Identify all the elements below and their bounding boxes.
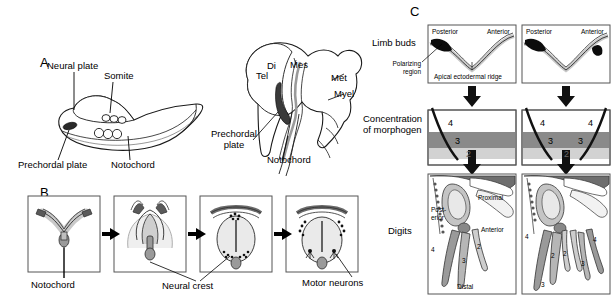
skeleton-right-digit-3a: 3 (581, 260, 585, 268)
skeleton-right-digit-2a: 2 (551, 252, 555, 260)
label-anterior-left: Anterior (487, 28, 510, 36)
label-posterior-left: Posterior (432, 28, 458, 36)
morphogen-digit-left-3: 3 (455, 136, 460, 146)
morphogen-digit-right-3b: 3 (578, 136, 583, 146)
morphogen-digit-left-4: 4 (448, 118, 453, 128)
morphogen-digit-left-2: 2 (466, 149, 471, 159)
morphogen-digit-right-3a: 3 (548, 136, 553, 146)
label-anterior-right: Anterior (581, 28, 604, 36)
label-anterior-skeleton: Anterior (481, 226, 504, 234)
skeleton-left-digit-4: 4 (431, 246, 435, 254)
panel-c-diagram (0, 0, 614, 302)
skeleton-left-digit-2: 2 (477, 243, 481, 251)
morphogen-digit-right-4a: 4 (540, 118, 545, 128)
skeleton-right-digit-4a: 4 (525, 233, 529, 241)
morphogen-digit-right-2: 2 (564, 149, 569, 159)
figure-root: A Neural plate Somite Prechordal plate N… (0, 0, 614, 302)
skeleton-right-digit-3b: 3 (541, 281, 545, 289)
skeleton-right-digit-2b: 2 (563, 250, 567, 258)
label-proximal: Proximal (478, 194, 503, 202)
skeleton-right-digit-4b: 4 (593, 236, 597, 244)
label-distal: Distal (457, 283, 473, 291)
label-apical-ectodermal-ridge: Apical ectodermal ridge (434, 73, 502, 81)
morphogen-digit-right-4b: 4 (588, 118, 593, 128)
skeleton-left-digit-3: 3 (462, 257, 466, 265)
label-posterior-skeleton: Post- erior (431, 206, 446, 221)
label-posterior-right: Posterior (526, 28, 552, 36)
